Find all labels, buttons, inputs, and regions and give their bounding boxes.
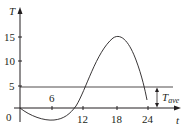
tave-arrow-down-icon [155,103,159,108]
tave-arrow-up-icon [155,88,159,93]
y-axis-arrow-icon [18,7,23,14]
x-axis-label: t [176,114,180,126]
temperature-chart: T 15 10 5 0 6 12 18 24 t Tave [0,0,184,128]
tave-label: Tave [162,91,180,105]
x-tick-24: 24 [142,113,154,125]
y-tick-15: 15 [4,31,16,43]
y-tick-5: 5 [9,80,15,92]
x-annotation-6: 6 [49,92,55,104]
x-tick-12: 12 [77,113,88,125]
x-axis-arrow-icon [174,106,181,111]
y-axis-label: T [9,5,16,17]
x-tick-18: 18 [111,113,123,125]
origin-label: 0 [6,111,12,123]
y-tick-10: 10 [4,55,16,67]
